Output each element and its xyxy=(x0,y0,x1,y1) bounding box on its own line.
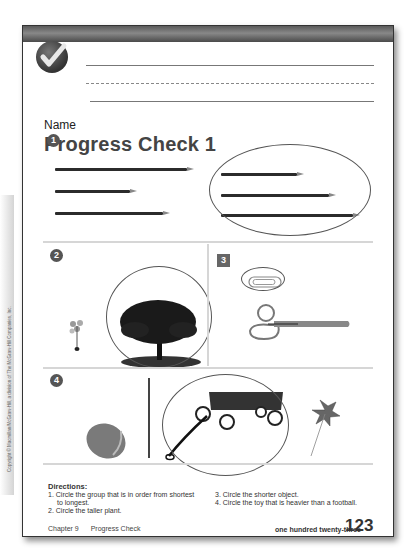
direction-item-2: 2. Circle the taller plant. xyxy=(48,507,122,515)
name-writing-line-dashed xyxy=(86,83,374,84)
section-3-badge: 3 xyxy=(217,254,230,267)
answer-circle-section-4 xyxy=(162,374,289,476)
direction-item-1: 1. Circle the group that is in order fro… xyxy=(48,491,194,499)
section-divider xyxy=(43,463,373,465)
direction-item-4: 4. Circle the toy that is heavier than a… xyxy=(215,499,357,507)
pencil xyxy=(55,168,187,171)
direction-item-1-cont: to longest. xyxy=(57,499,89,507)
name-label: Name xyxy=(44,118,76,132)
sapling-icon xyxy=(67,316,87,356)
section-divider xyxy=(43,367,373,369)
section-4-badge: 4 xyxy=(50,374,63,387)
section-1-badge: 1 xyxy=(47,134,60,147)
chapter-label: Chapter 9 xyxy=(48,525,79,532)
scissors-icon xyxy=(248,303,353,343)
pinwheel-icon xyxy=(308,398,342,458)
name-input-line[interactable] xyxy=(90,101,374,102)
answer-circle-section-1 xyxy=(209,144,371,236)
pencil xyxy=(55,190,130,193)
copyright-text: Copyright © Macmillan/McGraw-Hill, a div… xyxy=(7,272,12,472)
pencil xyxy=(55,212,163,215)
checkmark-badge-icon xyxy=(36,41,68,73)
direction-item-3: 3. Circle the shorter object. xyxy=(215,491,299,499)
football-icon xyxy=(83,421,129,461)
section-2-badge: 2 xyxy=(50,249,63,262)
section-divider-vertical xyxy=(207,244,209,366)
section-divider xyxy=(43,241,373,243)
answer-circle-section-2 xyxy=(106,266,212,368)
page-number: 123 xyxy=(345,516,373,536)
section-4-divider xyxy=(148,378,150,458)
answer-circle-section-3 xyxy=(241,267,285,291)
worksheet-page: Name Progress Check 1 1 2 3 4 xyxy=(22,25,394,537)
section-label: Progress Check xyxy=(91,525,141,532)
footer-chapter: Chapter 9 Progress Check xyxy=(48,525,140,532)
name-writing-line-top xyxy=(86,65,374,66)
page-title: Progress Check 1 xyxy=(44,133,216,156)
directions-heading: Directions: xyxy=(48,482,87,491)
header-band xyxy=(23,26,393,42)
